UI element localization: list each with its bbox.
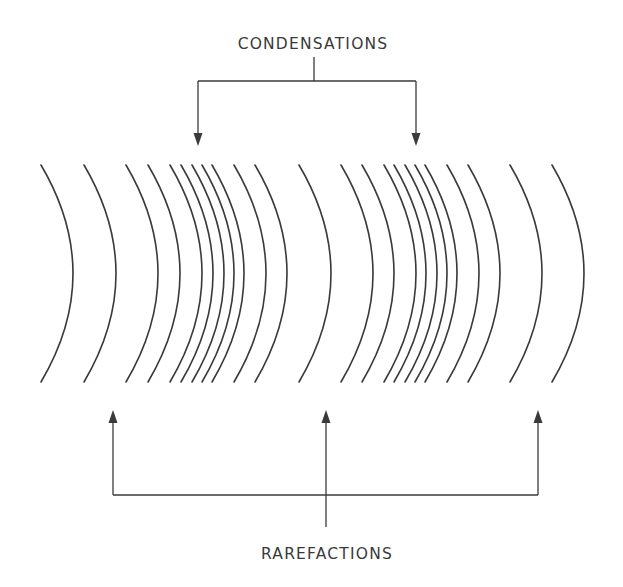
wavefront-arc bbox=[384, 165, 416, 382]
arrow-down-icon bbox=[412, 133, 421, 146]
rarefactions-bracket bbox=[109, 410, 543, 527]
wavefront-arc bbox=[510, 165, 542, 382]
wavefront-arc bbox=[362, 165, 394, 382]
arrow-up-icon bbox=[534, 410, 543, 423]
condensations-bracket bbox=[194, 57, 421, 146]
arrow-up-icon bbox=[322, 410, 331, 423]
wavefront-arc bbox=[425, 165, 457, 382]
wavefront-arc bbox=[341, 165, 373, 382]
wavefront-arc bbox=[255, 165, 287, 382]
wavefront-arcs bbox=[41, 165, 584, 382]
wavefront-arc bbox=[126, 165, 158, 382]
arrow-up-icon bbox=[109, 410, 118, 423]
wavefront-arc bbox=[552, 165, 584, 382]
wavefront-arc bbox=[415, 165, 447, 382]
wavefront-arc bbox=[148, 165, 180, 382]
wavefront-arc bbox=[299, 165, 331, 382]
wavefront-arc bbox=[468, 165, 500, 382]
wavefront-arc bbox=[41, 165, 73, 382]
wavefront-arc bbox=[212, 165, 244, 382]
wave-diagram: CONDENSATIONS RAREFACTIONS bbox=[0, 0, 623, 587]
rarefactions-label: RAREFACTIONS bbox=[261, 545, 393, 563]
wavefront-arc bbox=[84, 165, 116, 382]
wavefront-arc bbox=[202, 165, 234, 382]
condensations-label: CONDENSATIONS bbox=[238, 35, 389, 53]
wavefront-arc bbox=[447, 165, 479, 382]
arrow-down-icon bbox=[194, 133, 203, 146]
wavefront-arc bbox=[234, 165, 266, 382]
diagram-canvas bbox=[0, 0, 623, 587]
